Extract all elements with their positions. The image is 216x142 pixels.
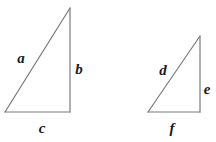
side-label-f: f bbox=[170, 121, 175, 136]
left-triangle-side-a bbox=[5, 8, 70, 112]
side-label-b: b bbox=[75, 62, 83, 77]
right-triangle-side-d bbox=[148, 36, 200, 112]
right-triangle bbox=[148, 36, 200, 112]
triangles-canvas bbox=[0, 0, 216, 142]
left-triangle bbox=[5, 8, 70, 112]
geometry-figure: a b c d e f bbox=[0, 0, 216, 142]
side-label-d: d bbox=[159, 63, 167, 78]
side-label-a: a bbox=[17, 51, 25, 66]
side-label-e: e bbox=[204, 82, 211, 97]
side-label-c: c bbox=[39, 121, 46, 136]
